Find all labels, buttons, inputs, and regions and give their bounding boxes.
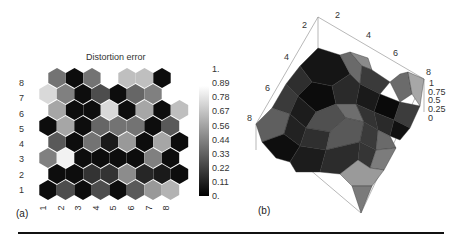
- surface-3d-plot: [0, 0, 460, 239]
- surface-y-tick: 4: [284, 52, 289, 62]
- surface-x-tick: 6: [393, 48, 398, 58]
- figure-bottom-rule: [18, 232, 444, 234]
- surface-y-tick: 8: [247, 113, 252, 123]
- surface-y-tick: 6: [265, 83, 270, 93]
- panel-b-label: (b): [258, 205, 270, 216]
- surface-z-tick: 0: [428, 113, 433, 123]
- surface-x-tick: 4: [366, 30, 371, 40]
- surface-x-tick: 8: [426, 67, 431, 77]
- surface-x-tick: 2: [335, 10, 340, 20]
- surface-y-tick: 2: [302, 20, 307, 30]
- surface-z-tick: 0.75: [428, 87, 446, 97]
- surface-z-tick: 0.25: [428, 104, 446, 114]
- surface-z-tick: 1: [429, 78, 434, 88]
